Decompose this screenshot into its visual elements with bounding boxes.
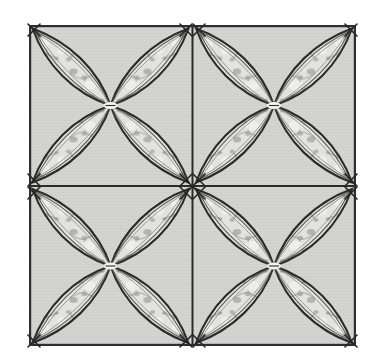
artwork-canvas — [0, 0, 380, 361]
quilt-pattern-illustration — [0, 0, 380, 361]
